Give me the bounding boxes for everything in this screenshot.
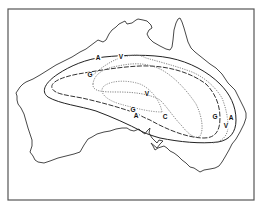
contour-V-inner xyxy=(93,64,202,137)
svg-text:C: C xyxy=(163,113,168,120)
label-C-center: C xyxy=(163,113,168,120)
label-A-east: A xyxy=(228,114,235,121)
svg-text:A: A xyxy=(96,54,101,61)
svg-text:V: V xyxy=(224,122,229,129)
australia-contour-map: A V G V G A C G A V xyxy=(0,0,260,208)
label-A-north: A xyxy=(95,54,102,61)
svg-text:G: G xyxy=(87,71,92,78)
map-frame xyxy=(8,9,254,200)
label-G-east: G xyxy=(212,113,219,120)
label-V-center: V xyxy=(145,90,150,97)
svg-text:A: A xyxy=(134,112,139,119)
contour-G xyxy=(52,66,220,138)
svg-text:V: V xyxy=(119,53,124,60)
svg-text:A: A xyxy=(229,114,234,121)
label-A-south: A xyxy=(133,112,140,119)
coastline xyxy=(16,18,246,172)
svg-text:V: V xyxy=(145,90,150,97)
label-V-east: V xyxy=(223,122,230,129)
label-G-west: G xyxy=(87,71,94,78)
label-V-north: V xyxy=(118,53,125,60)
svg-text:G: G xyxy=(212,113,217,120)
